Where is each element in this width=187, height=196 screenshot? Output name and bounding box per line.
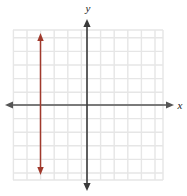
y-axis-down-arrowhead bbox=[83, 183, 90, 191]
coordinate-plane-svg: x y bbox=[0, 0, 187, 196]
axes-group bbox=[5, 19, 174, 191]
y-axis-up-arrowhead bbox=[83, 19, 90, 27]
x-axis-right-arrowhead bbox=[166, 101, 174, 108]
coordinate-plane-figure: x y bbox=[0, 0, 187, 196]
y-axis-label: y bbox=[85, 2, 91, 14]
x-axis-left-arrowhead bbox=[5, 101, 13, 108]
plotted-line-down-arrowhead bbox=[37, 167, 43, 175]
x-axis-label: x bbox=[177, 99, 183, 111]
plotted-line-group bbox=[37, 33, 43, 175]
plotted-line-up-arrowhead bbox=[37, 33, 43, 41]
